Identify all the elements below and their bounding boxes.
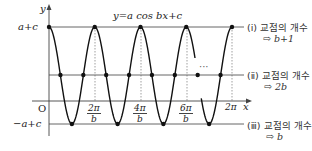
intersection-dot <box>115 122 119 126</box>
intersection-dot <box>218 73 222 77</box>
intersection-dot <box>58 73 62 77</box>
annotation-i-result: ⇨ b+1 <box>263 33 294 44</box>
y-axis-arrow <box>47 4 52 10</box>
intersection-dot <box>150 73 154 77</box>
intersection-dot <box>207 122 211 126</box>
intersection-dot <box>230 25 234 29</box>
intersection-dot <box>127 73 131 77</box>
intersection-dot <box>70 122 74 126</box>
annotation-iii: (ⅲ) 교점의 개수 <box>247 118 312 132</box>
intersection-dot <box>47 25 51 29</box>
annotation-i: (ⅰ) 교점의 개수 <box>247 20 308 34</box>
equation-label: y=a cos bx+c <box>113 10 182 21</box>
min-level-label: −a+c <box>13 118 41 129</box>
intersection-dot <box>161 122 165 126</box>
intersection-dot <box>93 25 97 29</box>
intersection-dot <box>104 73 108 77</box>
annotation-ii: (ⅱ) 교점의 개수 <box>247 68 310 82</box>
intersection-dot <box>173 73 177 77</box>
tick-4pi-over-b: 4π b <box>133 103 147 124</box>
max-level-label: a+c <box>18 21 38 32</box>
x-axis-label: x <box>243 101 249 112</box>
y-axis-label: y <box>40 3 46 14</box>
tick-6pi-over-b: 6π b <box>179 103 193 124</box>
intersection-dot <box>184 25 188 29</box>
intersection-dot <box>138 25 142 29</box>
intersection-dot <box>81 73 85 77</box>
tick-2pi: 2π <box>225 102 237 112</box>
annotation-iii-result: ⇨ b <box>266 131 283 142</box>
ellipsis: ··· <box>199 61 209 72</box>
intersection-dot <box>195 73 199 77</box>
tick-2pi-over-b: 2π b <box>87 103 101 124</box>
peak-guides <box>95 27 232 101</box>
annotation-ii-result: ⇨ 2b <box>264 81 287 92</box>
origin-label: O <box>38 103 46 114</box>
